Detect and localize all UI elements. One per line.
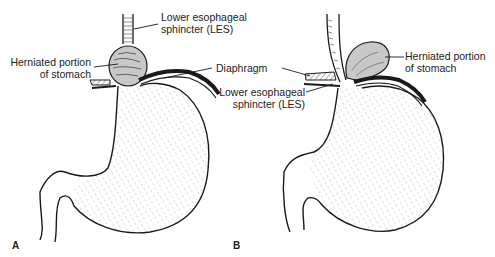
label-les-a: Lower esophageal sphincter (LES) <box>161 11 247 35</box>
stomach-a <box>40 83 209 242</box>
panel-b-drawing <box>283 14 443 232</box>
label-herniated-a: Herniated portion of stomach <box>10 56 91 80</box>
panel-letter-b: B <box>233 240 240 251</box>
label-diaphragm: Diaphragm <box>216 62 267 74</box>
herniated-portion-b <box>346 42 389 80</box>
label-herniated-b: Herniated portion of stomach <box>405 50 486 74</box>
stomach-b <box>283 86 443 232</box>
panel-a-drawing <box>40 14 219 242</box>
esophagus-a <box>123 14 133 44</box>
hiatal-hernia-figure <box>0 0 495 257</box>
label-les-b: Lower esophageal sphincter (LES) <box>219 86 305 110</box>
panel-letter-a: A <box>12 240 19 251</box>
